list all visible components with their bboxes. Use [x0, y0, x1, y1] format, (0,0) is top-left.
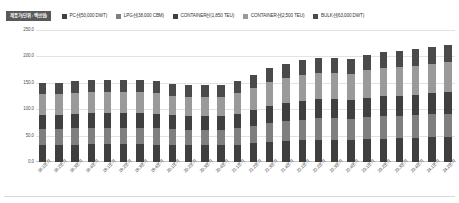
bar-segment	[169, 115, 176, 129]
bar-21.3분기[interactable]	[266, 68, 273, 162]
bar-segment	[266, 123, 273, 142]
legend-swatch-icon-2	[173, 14, 178, 19]
chart-container: 제품가(단위 : 백만원) PC선(50,000 DWT) LPG선(38,00…	[0, 0, 459, 203]
bar-segment	[120, 113, 127, 128]
bar-segment	[185, 116, 192, 130]
bar-20.3분기[interactable]	[201, 85, 208, 162]
bar-segment	[299, 120, 306, 141]
bar-segment	[104, 80, 111, 92]
bar-segment	[234, 114, 241, 129]
bar-segment	[299, 75, 306, 101]
bar-24.2분기[interactable]	[444, 45, 451, 162]
legend-item-2[interactable]: CONTAINER선(1,850 TEU)	[173, 14, 234, 19]
bar-18.3분기[interactable]	[71, 81, 78, 162]
bar-segment	[104, 113, 111, 128]
bar-segment	[104, 144, 111, 162]
bar-21.1분기[interactable]	[234, 81, 241, 162]
bar-19.3분기[interactable]	[136, 80, 143, 162]
x-label-slot: 22.2분기	[315, 163, 322, 191]
bar-segment	[412, 138, 419, 162]
bar-segment	[120, 92, 127, 113]
bar-segment	[266, 82, 273, 106]
bar-segment	[250, 88, 257, 110]
bar-22.3분기[interactable]	[331, 58, 338, 163]
bar-segment	[363, 139, 370, 162]
bar-segment	[444, 92, 451, 113]
bar-23.1분기[interactable]	[363, 55, 370, 162]
bar-24.1분기[interactable]	[428, 47, 435, 162]
legend-item-3[interactable]: CONTAINER선(2,500 TEU)	[243, 14, 304, 19]
bar-segment	[153, 81, 160, 93]
bar-segment	[315, 99, 322, 118]
bar-22.2분기[interactable]	[315, 58, 322, 163]
bar-segment	[201, 116, 208, 130]
x-label-slot: 20.3분기	[201, 163, 208, 191]
bar-19.4분기[interactable]	[153, 81, 160, 162]
bar-segment	[136, 113, 143, 128]
legend-item-4[interactable]: BULK선(63,000 DWT)	[313, 14, 364, 19]
x-label-slot: 18.4분기	[88, 163, 95, 191]
x-label-slot: 24.2분기	[444, 163, 451, 191]
x-label-slot: 20.1분기	[169, 163, 176, 191]
bar-21.2분기[interactable]	[250, 75, 257, 162]
plot-area	[36, 30, 455, 162]
bar-segment	[185, 130, 192, 146]
bar-23.3분기[interactable]	[396, 51, 403, 162]
bar-segment	[88, 113, 95, 128]
bar-23.4분기[interactable]	[412, 49, 419, 162]
bar-segment	[55, 83, 62, 95]
bar-19.2분기[interactable]	[120, 80, 127, 162]
bar-18.1분기[interactable]	[39, 83, 46, 162]
bar-20.1분기[interactable]	[169, 84, 176, 162]
bar-19.1분기[interactable]	[104, 80, 111, 162]
bar-22.1분기[interactable]	[299, 60, 306, 162]
bar-segment	[104, 92, 111, 113]
bar-segment	[39, 94, 46, 114]
bar-segment	[347, 59, 354, 74]
bar-segment	[104, 128, 111, 145]
bar-segment	[217, 97, 224, 117]
bar-20.2분기[interactable]	[185, 85, 192, 162]
bar-segment	[201, 97, 208, 117]
bar-segment	[315, 58, 322, 73]
bar-segment	[71, 93, 78, 114]
bar-18.4분기[interactable]	[88, 80, 95, 162]
legend-item-1[interactable]: LPG선(38,000 CBM)	[116, 14, 164, 19]
x-label-slot: 22.1분기	[299, 163, 306, 191]
bar-segment	[363, 117, 370, 139]
bar-20.4분기[interactable]	[217, 85, 224, 162]
bar-segment	[282, 64, 289, 79]
bar-segment	[39, 83, 46, 95]
bar-segment	[331, 99, 338, 118]
bar-group	[36, 30, 455, 162]
bar-23.2분기[interactable]	[380, 52, 387, 162]
x-label-slot: 22.4분기	[347, 163, 354, 191]
bar-segment	[347, 74, 354, 100]
legend-label-2: CONTAINER선(1,850 TEU)	[181, 14, 235, 19]
bar-segment	[299, 101, 306, 119]
legend-swatch-icon-3	[243, 14, 248, 19]
bar-21.4분기[interactable]	[282, 64, 289, 162]
bar-segment	[347, 140, 354, 162]
x-label-slot: 18.2분기	[55, 163, 62, 191]
bar-18.2분기[interactable]	[55, 83, 62, 162]
bar-segment	[380, 52, 387, 68]
bar-segment	[428, 114, 435, 137]
legend-item-0[interactable]: PC선(50,000 DWT)	[62, 14, 107, 19]
bar-segment	[169, 96, 176, 116]
bar-segment	[136, 92, 143, 113]
bar-22.4분기[interactable]	[347, 59, 354, 162]
bar-segment	[234, 81, 241, 93]
bar-segment	[380, 96, 387, 116]
bar-segment	[331, 118, 338, 139]
bar-segment	[217, 116, 224, 130]
bar-segment	[55, 115, 62, 129]
bar-segment	[266, 106, 273, 123]
bar-segment	[266, 142, 273, 162]
bar-segment	[315, 118, 322, 139]
bar-segment	[217, 85, 224, 96]
x-label-slot: 23.1분기	[363, 163, 370, 191]
x-label-slot: 19.1분기	[104, 163, 111, 191]
bar-segment	[363, 70, 370, 97]
bar-segment	[55, 129, 62, 145]
